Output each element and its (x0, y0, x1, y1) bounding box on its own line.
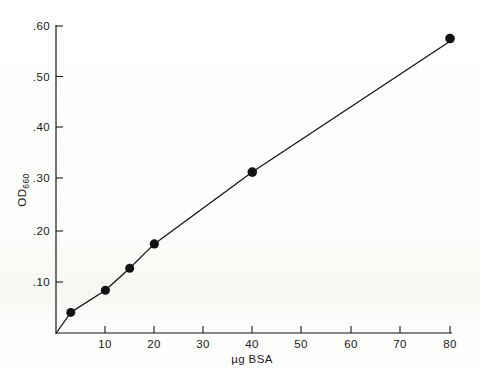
x-tick-label-60: 60 (344, 338, 358, 350)
y-tick-label-20: .20 (33, 225, 50, 237)
data-point-20ug[interactable] (150, 239, 159, 248)
x-tick-label-10: 10 (98, 338, 112, 350)
x-tick-label-30: 30 (196, 338, 210, 350)
y-axis-ticks (56, 26, 63, 282)
y-tick-label-40: .40 (33, 121, 50, 133)
x-tick-label-40: 40 (245, 338, 259, 350)
data-point-40ug[interactable] (248, 167, 258, 177)
y-axis-title-subscript: 660 (21, 173, 31, 188)
y-tick-label-30: .30 (33, 172, 50, 184)
y-tick-label-50: .50 (33, 71, 50, 83)
x-tick-label-20: 20 (147, 338, 161, 350)
x-tick-label-50: 50 (294, 338, 308, 350)
data-point-15ug[interactable] (125, 264, 134, 273)
axis-lines (56, 25, 453, 334)
chart-plot: .60 .50 .40 .30 .20 .10 10 20 30 40 50 6… (0, 0, 480, 377)
x-axis-title: µg BSA (231, 353, 273, 365)
data-line-series-1 (56, 41, 450, 333)
svg-text:OD660: OD660 (16, 173, 31, 206)
y-axis-title-main: OD (16, 189, 28, 207)
y-tick-label-60: .60 (33, 20, 50, 32)
data-point-10ug[interactable] (101, 286, 110, 295)
y-tick-label-10: .10 (33, 276, 50, 288)
data-point-80ug[interactable] (445, 34, 455, 44)
x-tick-label-80: 80 (443, 338, 457, 350)
y-axis-tick-labels: .60 .50 .40 .30 .20 .10 (33, 20, 50, 288)
x-axis-tick-labels: 10 20 30 40 50 60 70 80 (98, 338, 457, 350)
x-axis-title-group: µg BSA (231, 353, 273, 365)
figure-canvas: .60 .50 .40 .30 .20 .10 10 20 30 40 50 6… (0, 0, 480, 377)
data-point-5ug[interactable] (66, 308, 75, 317)
x-axis-ticks (105, 326, 450, 333)
y-axis-title-group: OD660 (16, 173, 31, 206)
x-tick-label-70: 70 (393, 338, 407, 350)
